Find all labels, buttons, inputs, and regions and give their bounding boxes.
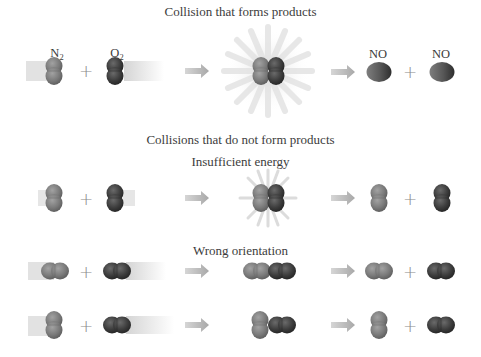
row-successful-collision	[0, 27, 455, 115]
molecule-dark-reactant-horizontal	[103, 263, 131, 280]
molecule-n2-colliding	[253, 57, 270, 85]
arrow-icon-row2-a	[185, 191, 209, 205]
molecule-dark-colliding-horizontal	[268, 263, 296, 280]
molecule-light-colliding	[253, 184, 270, 212]
arrow-icon-row1-a	[185, 64, 209, 78]
molecule-dark-product	[434, 184, 451, 212]
collision-diagram-canvas	[0, 0, 481, 357]
molecule-light-reactant-horizontal	[41, 263, 69, 280]
molecule-dark-product-horizontal	[427, 263, 455, 280]
row-wrong-orientation-t-shape	[28, 311, 455, 339]
molecule-dark-colliding-horizontal	[268, 317, 296, 334]
motion-trail-o2	[124, 61, 164, 81]
molecule-light-reactant	[46, 184, 63, 212]
row-insufficient-energy	[38, 170, 451, 226]
molecule-light-colliding-horizontal	[243, 263, 271, 280]
molecule-no-product-1	[367, 62, 392, 82]
arrow-icon-row1-b	[331, 65, 355, 79]
molecule-light-product	[371, 184, 388, 212]
arrow-icon-row3-a	[185, 264, 209, 278]
molecule-dark-reactant	[107, 184, 124, 212]
molecule-o2-colliding	[268, 57, 285, 85]
arrow-icon-row2-b	[331, 191, 355, 205]
molecule-no-product-2	[430, 62, 455, 82]
molecule-light-reactant-vertical	[46, 311, 63, 339]
molecule-light-product-horizontal	[365, 263, 393, 280]
row-wrong-orientation-end-on	[28, 262, 455, 280]
molecule-n2-reactant	[46, 57, 63, 85]
molecule-o2-reactant	[107, 57, 124, 85]
molecule-light-product-vertical	[371, 311, 388, 339]
molecule-dark-colliding	[268, 184, 285, 212]
arrow-icon-row3-b	[331, 264, 355, 278]
arrow-icon-row4-b	[331, 318, 355, 332]
molecule-light-colliding-vertical	[252, 311, 269, 339]
arrow-icon-row4-a	[185, 318, 209, 332]
molecule-dark-reactant-horizontal	[103, 317, 131, 334]
molecule-dark-product-horizontal	[427, 317, 455, 334]
